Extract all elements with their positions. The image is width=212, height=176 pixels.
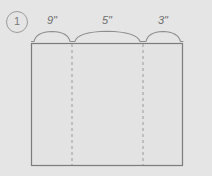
dimension-label-segment-2: 5" [102,14,113,26]
geometry-diagram: 1 9" 5" 3" [0,0,212,176]
problem-number-label: 1 [14,15,20,27]
main-rectangle [32,44,183,166]
dimension-label-segment-3: 3" [158,14,169,26]
figure-canvas: 1 9" 5" 3" [0,0,212,176]
dimension-label-segment-1: 9" [47,14,58,26]
